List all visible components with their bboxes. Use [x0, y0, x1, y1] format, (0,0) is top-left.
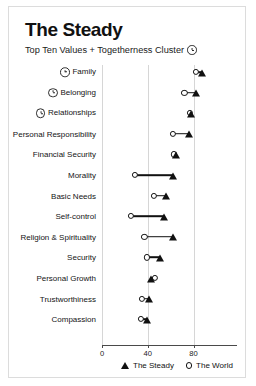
steady-marker	[169, 234, 177, 241]
category-label-text: Morality	[68, 171, 96, 180]
steady-marker	[162, 193, 170, 200]
category-label-text: Trustworthiness	[40, 294, 96, 303]
dot-plot: 04080FamilyBelongingRelationshipsPersona…	[9, 7, 246, 378]
category-label-text: Belonging	[60, 88, 96, 97]
steady-marker	[192, 90, 200, 97]
axis-tick-label: 80	[189, 349, 197, 358]
connector-line	[135, 174, 173, 176]
category-label-text: Family	[72, 68, 96, 77]
steady-marker	[185, 131, 193, 138]
gridline	[194, 65, 195, 345]
category-label: Belonging	[48, 88, 96, 98]
axis-tick-label: 40	[144, 349, 152, 358]
steady-marker	[169, 172, 177, 179]
world-marker	[170, 131, 176, 137]
world-marker	[128, 213, 134, 219]
chart-card: The Steady Top Ten Values + Togetherness…	[8, 6, 246, 378]
category-label: Compassion	[52, 315, 96, 324]
category-label: Personal Responsibility	[13, 129, 96, 138]
legend-label-steady: The Steady	[133, 361, 174, 370]
steady-marker	[198, 69, 206, 76]
category-label: Family	[60, 67, 96, 77]
category-label: Morality	[68, 171, 96, 180]
chart-legend: The SteadyThe World	[121, 361, 233, 370]
world-marker	[150, 193, 156, 199]
category-label-text: Compassion	[52, 315, 96, 324]
world-marker	[181, 90, 187, 96]
clock-icon	[36, 108, 46, 118]
category-label-text: Self-control	[56, 212, 96, 221]
category-label: Personal Growth	[36, 274, 96, 283]
clock-icon	[60, 67, 70, 77]
world-marker	[144, 254, 150, 260]
gridline	[102, 65, 103, 345]
category-label: Relationships	[36, 108, 96, 118]
legend-item-world: The World	[186, 361, 233, 370]
filled-triangle-icon	[121, 362, 129, 369]
category-label-text: Personal Responsibility	[13, 129, 96, 138]
steady-marker	[143, 316, 151, 323]
category-label: Self-control	[56, 212, 96, 221]
legend-item-steady: The Steady	[121, 361, 174, 370]
category-label-text: Security	[67, 253, 96, 262]
category-label-text: Relationships	[48, 109, 96, 118]
category-label: Financial Security	[33, 150, 96, 159]
category-label-text: Religion & Spirituality	[20, 232, 96, 241]
category-label: Religion & Spirituality	[20, 232, 96, 241]
steady-marker	[145, 296, 153, 303]
open-circle-icon	[186, 362, 192, 368]
world-marker	[132, 172, 138, 178]
steady-marker	[172, 151, 180, 158]
clock-icon	[48, 88, 58, 98]
world-marker	[141, 234, 147, 240]
steady-marker	[156, 254, 164, 261]
axis-tick-label: 0	[100, 349, 104, 358]
steady-marker	[147, 275, 155, 282]
x-axis-line	[102, 345, 237, 346]
category-label: Basic Needs	[51, 191, 96, 200]
steady-marker	[160, 213, 168, 220]
category-label-text: Personal Growth	[36, 274, 96, 283]
steady-marker	[187, 110, 195, 117]
category-label-text: Basic Needs	[51, 191, 96, 200]
category-label: Security	[67, 253, 96, 262]
category-label: Trustworthiness	[40, 294, 96, 303]
category-label-text: Financial Security	[33, 150, 96, 159]
gridline	[148, 65, 149, 345]
legend-label-world: The World	[196, 361, 233, 370]
